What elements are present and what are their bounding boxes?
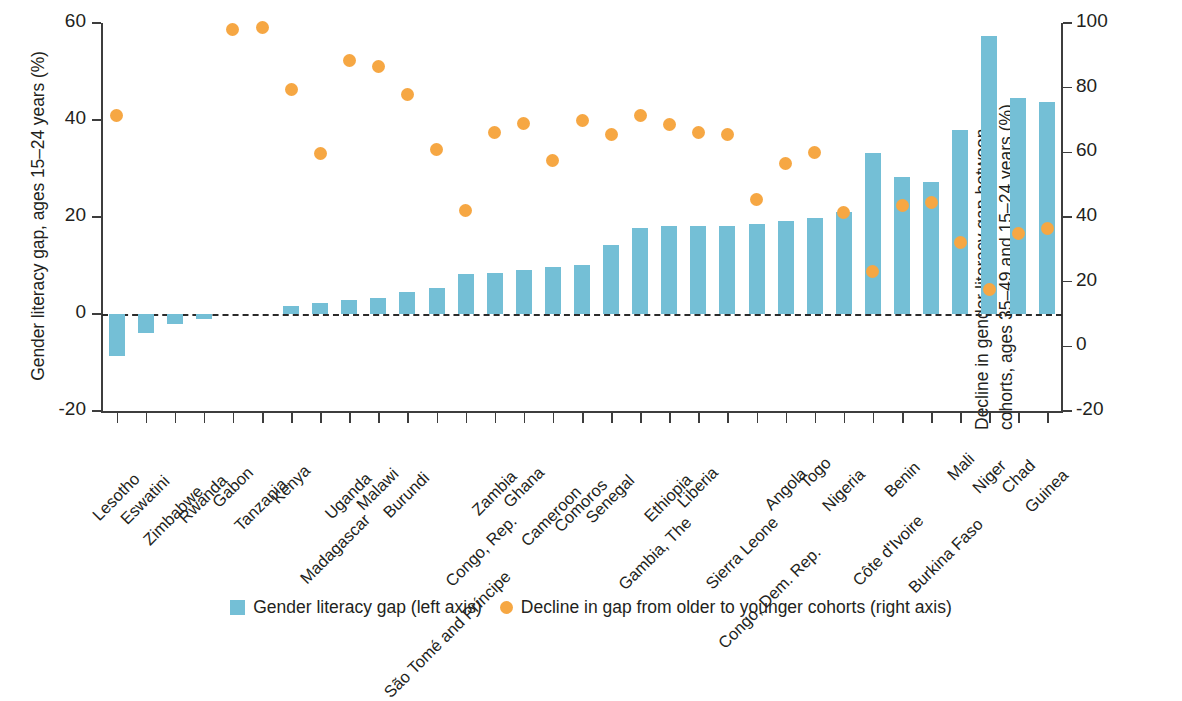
- x-tick: [553, 412, 555, 423]
- bar-rwanda: [196, 314, 212, 319]
- left-tick: [92, 216, 101, 218]
- x-tick: [669, 412, 671, 423]
- x-tick: [727, 412, 729, 423]
- dot-zambia: [488, 126, 501, 139]
- x-tick: [466, 412, 468, 423]
- bar-cameroon: [545, 267, 561, 314]
- x-tick: [146, 412, 148, 423]
- x-label-sierra-leone: Sierra Leone: [702, 513, 782, 593]
- legend-item-dot: Decline in gap from older to younger coh…: [500, 597, 952, 618]
- dot-sierra-leone: [721, 128, 734, 141]
- right-tick-label: 0: [1076, 333, 1087, 355]
- left-tick: [92, 313, 101, 315]
- x-tick: [815, 412, 817, 423]
- bar-malawi: [370, 298, 386, 314]
- bar-zimbabwe: [167, 314, 183, 324]
- dot-congo-rep: [459, 204, 472, 217]
- right-tick-label: 20: [1076, 269, 1097, 291]
- x-tick: [233, 412, 235, 423]
- dot-tanzania: [256, 21, 269, 34]
- dot-uganda: [343, 54, 356, 67]
- left-tick-label: 0: [34, 301, 86, 323]
- x-tick: [873, 412, 875, 423]
- right-tick: [1063, 22, 1072, 24]
- legend-square-icon: [230, 600, 245, 615]
- dot-gambia-the: [634, 109, 647, 122]
- x-tick: [698, 412, 700, 423]
- x-tick: [320, 412, 322, 423]
- left-tick-label: -20: [34, 398, 86, 420]
- left-tick-label: 60: [34, 10, 86, 32]
- right-tick: [1063, 152, 1072, 154]
- bar-togo: [807, 218, 823, 314]
- x-tick: [1018, 412, 1020, 423]
- right-tick-label: -20: [1076, 398, 1103, 420]
- legend-label-bar: Gender literacy gap (left axis): [253, 597, 482, 618]
- left-tick-label: 40: [34, 107, 86, 129]
- dot-chad: [1012, 227, 1025, 240]
- x-tick: [611, 412, 613, 423]
- right-tick-label: 80: [1076, 75, 1097, 97]
- dot-lesotho: [110, 109, 123, 122]
- x-tick: [262, 412, 264, 423]
- right-tick: [1063, 346, 1072, 348]
- bar-burundi: [399, 292, 415, 314]
- dot-liberia: [692, 126, 705, 139]
- x-tick: [786, 412, 788, 423]
- bar-s-o-tom-and-pr-ncipe: [429, 288, 445, 314]
- bar-nigeria: [836, 212, 852, 314]
- chart-legend: Gender literacy gap (left axis) Decline …: [0, 597, 1182, 618]
- plot-area: [102, 23, 1062, 411]
- dot-comoros: [576, 114, 589, 127]
- dot-madagascar: [314, 147, 327, 160]
- x-tick: [495, 412, 497, 423]
- x-tick: [582, 412, 584, 423]
- dot-benin: [896, 199, 909, 212]
- x-tick: [407, 412, 409, 423]
- dot-burkina-faso: [925, 196, 938, 209]
- zero-baseline: [102, 314, 1062, 316]
- bar-sierra-leone: [719, 226, 735, 314]
- bar-c-te-d-ivoire: [865, 153, 881, 314]
- x-tick: [640, 412, 642, 423]
- bar-kenya: [283, 306, 299, 314]
- dot-malawi: [372, 60, 385, 73]
- x-tick: [204, 412, 206, 423]
- dot-kenya: [285, 83, 298, 96]
- x-tick: [378, 412, 380, 423]
- x-tick: [175, 412, 177, 423]
- bar-eswatini: [138, 314, 154, 333]
- bar-ethiopia: [661, 226, 677, 314]
- bar-niger: [981, 36, 997, 314]
- dot-burundi: [401, 88, 414, 101]
- dot-cameroon: [546, 154, 559, 167]
- bar-comoros: [574, 265, 590, 314]
- bar-congo-dem-rep: [749, 224, 765, 314]
- dot-gabon: [226, 23, 239, 36]
- x-tick: [291, 412, 293, 423]
- bar-senegal: [603, 245, 619, 314]
- x-tick: [757, 412, 759, 423]
- bar-lesotho: [109, 314, 125, 356]
- x-tick: [117, 412, 119, 423]
- dot-mali: [954, 236, 967, 249]
- bar-guinea: [1039, 102, 1055, 314]
- legend-circle-icon: [500, 601, 513, 614]
- x-tick: [524, 412, 526, 423]
- bar-madagascar: [312, 303, 328, 314]
- dot-guinea: [1041, 222, 1054, 235]
- dot-ghana: [517, 117, 530, 130]
- bar-chad: [1010, 98, 1026, 314]
- dot-senegal: [605, 128, 618, 141]
- left-axis-line: [101, 23, 103, 411]
- x-label-s-o-tom-and-pr-ncipe: São Tomé and Príncipe: [380, 567, 515, 701]
- dot-angola: [779, 157, 792, 170]
- x-tick: [1047, 412, 1049, 423]
- left-tick-label: 20: [34, 204, 86, 226]
- x-tick: [960, 412, 962, 423]
- x-label-benin: Benin: [881, 458, 924, 501]
- right-tick: [1063, 281, 1072, 283]
- x-label-gambia-the: Gambia, The: [615, 513, 696, 594]
- right-tick-label: 40: [1076, 204, 1097, 226]
- bar-gambia-the: [632, 228, 648, 314]
